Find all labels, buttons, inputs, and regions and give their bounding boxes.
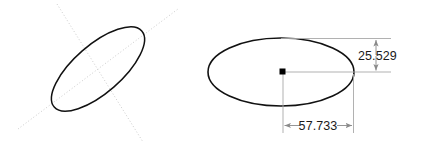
right-figure-group: 25.529 57.733 — [208, 38, 397, 133]
left-figure-group — [18, 4, 178, 142]
vertical-dimension-label: 25.529 — [358, 49, 397, 63]
center-point-marker — [280, 69, 286, 75]
minor-axis-construction-line — [57, 4, 143, 142]
drawing-canvas: 25.529 57.733 — [0, 0, 421, 147]
horizontal-dimension-label: 57.733 — [299, 119, 338, 133]
